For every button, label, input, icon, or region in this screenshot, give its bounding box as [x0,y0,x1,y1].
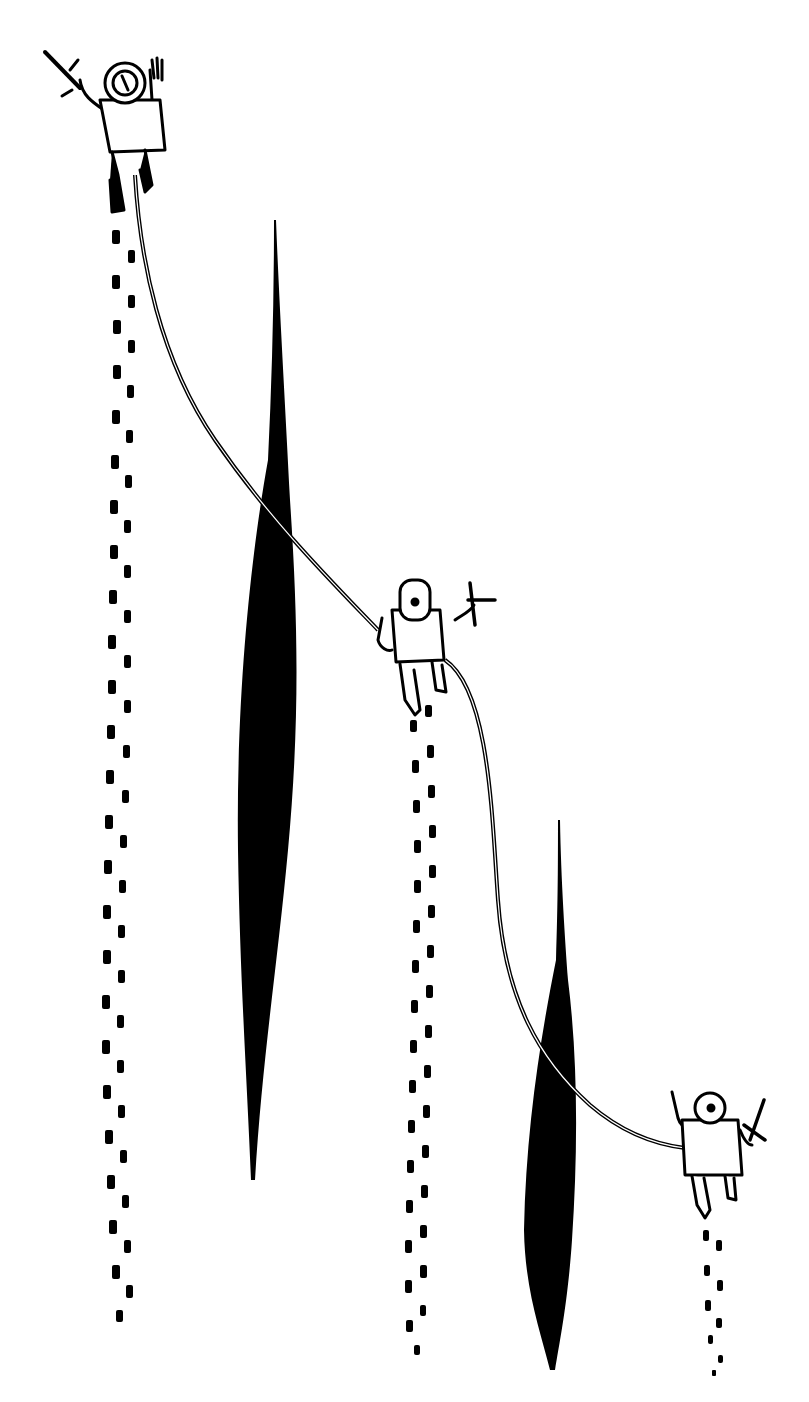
climbers-illustration [0,0,809,1402]
